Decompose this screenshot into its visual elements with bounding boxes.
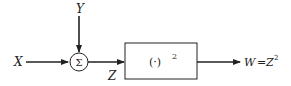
input-y-label: Y <box>76 2 85 16</box>
block-diagram: Y X Σ Z (·) 2 W = Z 2 <box>0 0 291 86</box>
intermediate-z-label: Z <box>107 69 117 83</box>
sigma-symbol: Σ <box>75 57 82 68</box>
input-x-label: X <box>13 55 23 69</box>
block-exponent: 2 <box>172 52 177 61</box>
output-z-label: Z <box>265 56 274 69</box>
output-exponent: 2 <box>274 54 278 62</box>
block-base: (·) <box>149 56 161 69</box>
output-equals: = <box>257 56 266 69</box>
output-w-label: W <box>244 56 257 69</box>
